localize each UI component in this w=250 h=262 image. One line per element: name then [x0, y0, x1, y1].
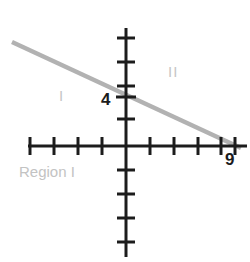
region-label-two: II	[168, 64, 178, 79]
x-intercept-label: 9	[225, 151, 234, 168]
graph-canvas: 4 9 I II Region I	[0, 0, 250, 262]
region-label-one: I	[59, 88, 64, 103]
region-caption: Region I	[19, 164, 75, 179]
coordinate-plane-graphic	[0, 0, 250, 262]
y-intercept-label: 4	[101, 91, 110, 108]
